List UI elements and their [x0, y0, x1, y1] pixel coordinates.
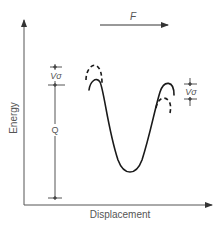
right-v-sigma-label: Vσ [185, 87, 197, 97]
energy-displacement-diagram: Energy Displacement F Vσ Q Vσ [0, 0, 223, 226]
force-label: F [130, 11, 137, 22]
x-axis-label: Displacement [90, 209, 151, 220]
left-v-sigma-label: Vσ [50, 71, 62, 81]
energy-curve-solid [89, 80, 174, 172]
q-label: Q [51, 125, 58, 135]
axes [24, 20, 212, 205]
y-axis-label: Energy [8, 102, 19, 134]
